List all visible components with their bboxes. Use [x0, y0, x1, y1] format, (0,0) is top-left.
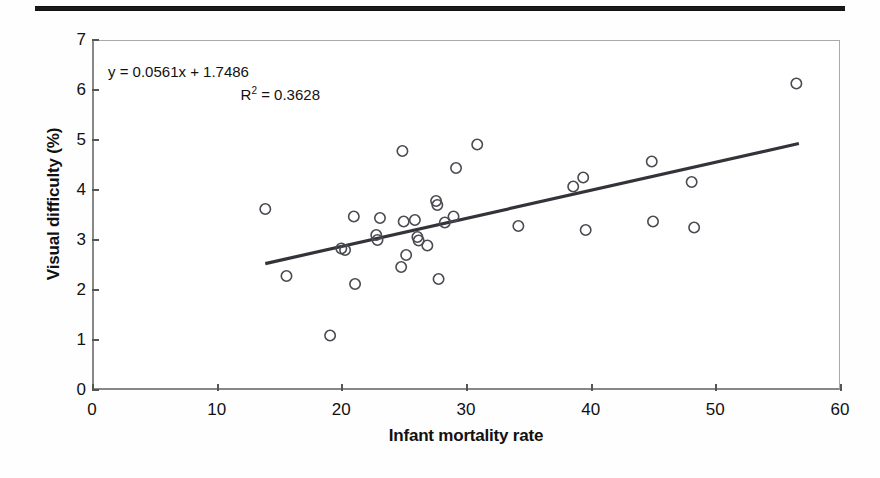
- data-point: [281, 271, 291, 281]
- data-point: [648, 216, 658, 226]
- data-point: [375, 213, 385, 223]
- x-tick-mark: [591, 384, 593, 391]
- data-point: [647, 156, 657, 166]
- data-point: [513, 221, 523, 231]
- data-point: [433, 274, 443, 284]
- data-point: [580, 225, 590, 235]
- y-tick-mark: [92, 139, 99, 141]
- x-tick-label: 40: [565, 400, 617, 420]
- y-tick-mark: [92, 289, 99, 291]
- x-tick-label: 60: [814, 400, 866, 420]
- data-point: [686, 177, 696, 187]
- x-tick-mark: [341, 384, 343, 391]
- x-tick-mark: [92, 384, 94, 391]
- page-top-rule: [35, 6, 845, 11]
- r-squared-value: = 0.3628: [261, 86, 320, 103]
- x-tick-label: 10: [191, 400, 243, 420]
- y-tick-mark: [92, 189, 99, 191]
- x-tick-label: 50: [689, 400, 741, 420]
- r-squared-exponent: 2: [251, 85, 257, 96]
- data-points-group: [260, 78, 801, 340]
- x-tick-mark: [840, 384, 842, 391]
- data-point: [325, 330, 335, 340]
- data-point: [401, 250, 411, 260]
- data-point: [689, 222, 699, 232]
- figure-page: 01234567 0102030405060 Infant mortality …: [0, 0, 880, 478]
- data-point: [578, 172, 588, 182]
- y-tick-label: 0: [56, 380, 86, 400]
- y-tick-label: 7: [56, 30, 86, 50]
- regression-annotation: y = 0.0561x + 1.7486 R2 = 0.3628: [108, 60, 338, 107]
- x-axis: 0102030405060: [92, 390, 840, 426]
- data-point: [397, 146, 407, 156]
- data-point: [568, 181, 578, 191]
- x-tick-mark: [466, 384, 468, 391]
- data-point: [410, 215, 420, 225]
- data-point: [398, 216, 408, 226]
- data-point: [472, 139, 482, 149]
- x-tick-mark: [217, 384, 219, 391]
- data-point: [396, 262, 406, 272]
- y-tick-mark: [92, 339, 99, 341]
- x-axis-title: Infant mortality rate: [92, 426, 840, 446]
- data-point: [260, 204, 270, 214]
- data-point: [349, 211, 359, 221]
- data-point: [451, 163, 461, 173]
- scatter-chart: 01234567 0102030405060 Infant mortality …: [0, 18, 880, 478]
- r-squared-symbol: R: [241, 86, 252, 103]
- data-point: [791, 78, 801, 88]
- data-point: [422, 240, 432, 250]
- x-tick-label: 20: [315, 400, 367, 420]
- r-squared-line: R2 = 0.3628: [108, 83, 338, 106]
- y-axis-title: Visual difficulty (%): [44, 54, 64, 354]
- y-tick-mark: [92, 89, 99, 91]
- x-tick-label: 0: [66, 400, 118, 420]
- regression-equation: y = 0.0561x + 1.7486: [108, 60, 338, 83]
- y-tick-mark: [92, 239, 99, 241]
- x-tick-label: 30: [440, 400, 492, 420]
- y-tick-mark: [92, 39, 99, 41]
- x-tick-mark: [715, 384, 717, 391]
- data-point: [350, 279, 360, 289]
